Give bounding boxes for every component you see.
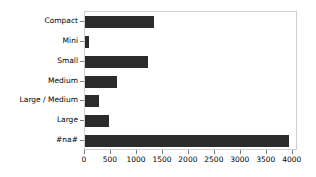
- x-tick-mark: [188, 150, 189, 154]
- y-tick-label: Mini: [0, 37, 78, 45]
- bar-medium: [85, 76, 117, 88]
- bar-compact: [85, 16, 154, 28]
- y-tick-label: Small: [0, 57, 78, 65]
- x-tick-mark: [292, 150, 293, 154]
- y-tick-label: #na#: [0, 136, 78, 144]
- y-tick-label: Compact: [0, 17, 78, 25]
- bar-large-medium: [85, 95, 99, 107]
- x-tick-mark: [136, 150, 137, 154]
- bar-row: [85, 95, 298, 107]
- x-tick-label: 4000: [272, 156, 312, 164]
- x-tick-mark: [162, 150, 163, 154]
- x-tick-mark: [110, 150, 111, 154]
- bar-row: [85, 76, 298, 88]
- y-tick-label: Large / Medium: [0, 96, 78, 104]
- bar-row: [85, 115, 298, 127]
- bar-row: [85, 36, 298, 48]
- y-axis-labels: CompactMiniSmallMediumLarge / MediumLarg…: [0, 0, 80, 177]
- bar-row: [85, 56, 298, 68]
- bar-row: [85, 135, 298, 147]
- plot-area: [84, 11, 297, 150]
- y-tick-label: Large: [0, 116, 78, 124]
- bar-large: [85, 115, 109, 127]
- x-tick-mark: [240, 150, 241, 154]
- bar-small: [85, 56, 148, 68]
- x-tick-mark: [84, 150, 85, 154]
- bar-chart-figure: CompactMiniSmallMediumLarge / MediumLarg…: [0, 0, 316, 177]
- y-tick-label: Medium: [0, 77, 78, 85]
- bar-mini: [85, 36, 89, 48]
- x-tick-mark: [214, 150, 215, 154]
- x-tick-mark: [266, 150, 267, 154]
- bar-na: [85, 135, 289, 147]
- bar-row: [85, 16, 298, 28]
